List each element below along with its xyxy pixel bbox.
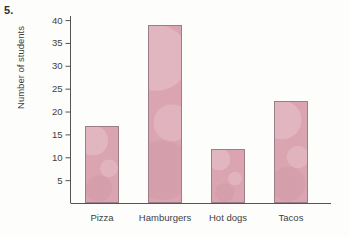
y-axis-tick-label: 40 [41, 16, 63, 26]
y-axis-tick-label: 15 [41, 130, 63, 140]
bar-hamburgers [148, 25, 182, 203]
bar-tacos [274, 101, 308, 204]
bar-hot-dogs [211, 149, 245, 204]
bar-chart-figure: 5. Number of students 510152025303540 Pi… [0, 0, 349, 237]
y-axis-tick-label: 20 [41, 107, 63, 117]
y-axis-tick-label: 35 [41, 38, 63, 48]
y-axis-tick-label: 5 [41, 176, 63, 186]
y-axis-ticks [66, 21, 71, 181]
plot-area: 510152025303540 PizzaHamburgersHot dogsT… [0, 0, 349, 237]
bar-pizza [85, 126, 119, 204]
y-axis-tick-label: 25 [41, 84, 63, 94]
y-axis-tick-label: 30 [41, 61, 63, 71]
x-axis-label-tacos: Tacos [246, 212, 336, 223]
y-axis-tick-label: 10 [41, 153, 63, 163]
